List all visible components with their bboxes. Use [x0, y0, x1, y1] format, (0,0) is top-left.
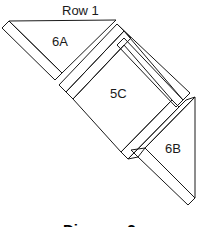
piece-5c: 5C [59, 24, 190, 159]
label-5c: 5C [110, 86, 127, 101]
strip-6b [131, 148, 195, 205]
piece-6b: 6B [128, 97, 195, 205]
quilt-row-diagram: Row 1 6A 5C 6B Diagram 2 [0, 0, 203, 227]
strip-5c-outer-left [59, 24, 124, 92]
row-label: Row 1 [62, 3, 99, 18]
diagram-caption: Diagram 2 [63, 221, 136, 227]
strip-6a [2, 21, 62, 80]
label-6b: 6B [165, 141, 181, 156]
label-6a: 6A [52, 34, 68, 49]
strip-5c-6b [128, 97, 195, 159]
strip-5c-outer-right [117, 24, 190, 100]
